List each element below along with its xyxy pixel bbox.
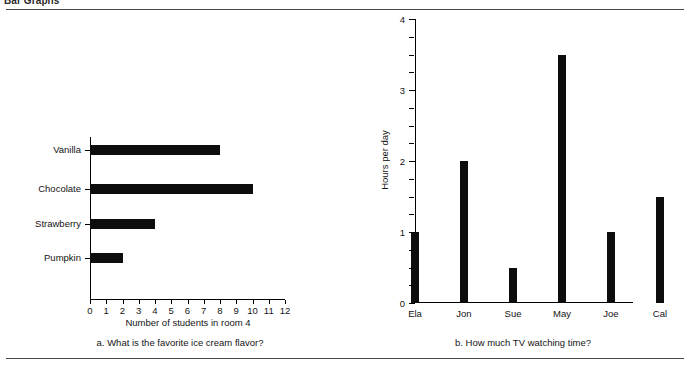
x-axis-title: Number of students in room 4 — [125, 317, 250, 328]
y-axis-tick-major — [409, 232, 415, 233]
x-axis-tick-label: 6 — [185, 305, 190, 316]
x-axis-tick — [220, 300, 221, 304]
x-axis-tick — [269, 300, 270, 304]
y-axis-tick-label: 0 — [400, 298, 405, 309]
x-axis-tick-label: 7 — [201, 305, 206, 316]
x-axis-tick — [171, 300, 172, 304]
category-label: Cal — [653, 308, 667, 319]
y-axis-tick-minor — [409, 55, 414, 56]
x-axis-tick — [253, 300, 254, 304]
chart-caption-b: b. How much TV watching time? — [455, 337, 591, 348]
category-label: Strawberry — [35, 218, 81, 229]
y-axis-tick-major — [409, 90, 415, 91]
y-axis-tick-major — [409, 19, 415, 20]
bar — [509, 268, 517, 304]
x-axis-tick — [188, 300, 189, 304]
y-axis-tick — [85, 189, 90, 190]
y-axis-tick-minor — [409, 268, 414, 269]
bar — [460, 161, 468, 303]
y-axis-tick-label: 2 — [400, 156, 405, 167]
y-axis-title: Hours per day — [379, 130, 390, 190]
x-axis-tick-label: 5 — [169, 305, 174, 316]
bar — [90, 219, 155, 229]
x-axis-tick — [155, 300, 156, 304]
category-label: May — [553, 308, 571, 319]
x-axis-tick-label: 11 — [264, 305, 274, 316]
bar — [558, 55, 566, 304]
y-axis-tick — [85, 224, 90, 225]
x-axis-tick-label: 8 — [217, 305, 222, 316]
y-axis-tick-minor — [409, 143, 414, 144]
category-label: Ela — [408, 308, 422, 319]
x-axis-tick — [285, 300, 286, 304]
bar — [90, 184, 253, 194]
category-label: Sue — [505, 308, 522, 319]
category-label: Joe — [603, 308, 618, 319]
x-axis-tick — [139, 300, 140, 304]
bar — [90, 145, 220, 155]
y-axis-tick — [85, 258, 90, 259]
y-axis-tick-major — [409, 161, 415, 162]
y-axis-tick-minor — [409, 179, 414, 180]
x-axis-tick — [123, 300, 124, 304]
x-axis-tick-label: 2 — [120, 305, 125, 316]
category-label: Jon — [456, 308, 471, 319]
category-label: Pumpkin — [44, 252, 81, 263]
y-axis-tick-major — [409, 303, 415, 304]
bar — [607, 232, 615, 303]
chart-caption-a: a. What is the favorite ice cream flavor… — [97, 337, 264, 348]
category-label: Vanilla — [53, 144, 81, 155]
chart-favorite-ice-cream-flavor: VanillaChocolateStrawberryPumpkin 012345… — [0, 0, 360, 376]
y-axis-tick-minor — [409, 126, 414, 127]
y-axis-tick-label: 4 — [400, 14, 405, 25]
category-label: Chocolate — [38, 183, 81, 194]
x-axis-tick — [204, 300, 205, 304]
x-axis-tick-label: 3 — [136, 305, 141, 316]
x-axis-tick-label: 0 — [87, 305, 92, 316]
y-axis-tick-minor — [409, 108, 414, 109]
y-axis-tick-label: 3 — [400, 85, 405, 96]
y-axis-tick — [85, 150, 90, 151]
x-axis-tick — [236, 300, 237, 304]
y-axis-tick-minor — [409, 214, 414, 215]
x-axis-tick-label: 1 — [104, 305, 109, 316]
x-axis-tick — [106, 300, 107, 304]
x-axis-tick-label: 10 — [247, 305, 258, 316]
chart-tv-watching-time: 01234 ElaJonSueMayJoeCal Hours per day b… — [360, 0, 690, 376]
y-axis-tick-minor — [409, 37, 414, 38]
x-axis-tick-label: 4 — [152, 305, 157, 316]
x-axis-tick-label: 9 — [234, 305, 239, 316]
bar — [656, 197, 664, 304]
y-axis-tick-label: 1 — [400, 227, 405, 238]
x-axis-tick — [90, 300, 91, 304]
x-axis-tick-label: 12 — [280, 305, 291, 316]
y-axis-tick-minor — [409, 72, 414, 73]
y-axis-tick-minor — [409, 250, 414, 251]
x-axis-line — [415, 302, 633, 303]
y-axis-tick-minor — [409, 197, 414, 198]
bar — [90, 253, 123, 263]
y-axis-tick-minor — [409, 285, 414, 286]
